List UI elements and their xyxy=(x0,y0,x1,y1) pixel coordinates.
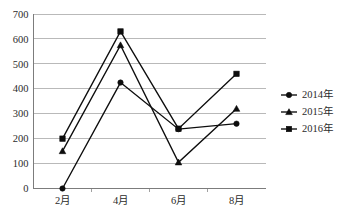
data-point-square-icon xyxy=(176,126,181,131)
chart-canvas: 0100200300400500600700 2月4月6月8月 2014年201… xyxy=(0,0,359,222)
data-point-square-icon xyxy=(60,136,65,141)
data-point-triangle-icon xyxy=(59,148,66,154)
legend-label: 2016年 xyxy=(302,122,333,134)
legend-label: 2014年 xyxy=(302,88,333,100)
y-axis-tick-label: 100 xyxy=(13,158,29,169)
x-axis-tick-label: 2月 xyxy=(55,195,70,206)
y-axis-tick-label: 0 xyxy=(23,183,28,194)
data-series xyxy=(59,29,240,191)
legend-label: 2015年 xyxy=(302,105,333,117)
y-axis-tick-label: 600 xyxy=(13,34,29,45)
series-line xyxy=(63,45,237,162)
y-axis-tick-label: 700 xyxy=(13,9,29,20)
series-line xyxy=(63,31,237,138)
legend-item-2016年[interactable]: 2016年 xyxy=(281,122,333,134)
axis-lines xyxy=(34,14,266,189)
legend-item-2015年[interactable]: 2015年 xyxy=(281,105,333,117)
data-point-square-icon xyxy=(118,29,123,34)
y-axis-tick-label: 200 xyxy=(13,133,29,144)
y-axis-labels: 0100200300400500600700 xyxy=(13,9,29,195)
y-axis-tick-label: 300 xyxy=(13,108,29,119)
line-chart: 0100200300400500600700 2月4月6月8月 2014年201… xyxy=(0,0,359,222)
data-point-circle-icon xyxy=(234,121,239,126)
data-point-circle-icon xyxy=(60,186,65,191)
y-axis-tick-label: 500 xyxy=(13,59,29,70)
legend-marker-circle-icon xyxy=(286,92,291,97)
x-axis-tick-label: 8月 xyxy=(229,195,244,206)
legend-item-2014年[interactable]: 2014年 xyxy=(281,88,333,100)
x-axis-labels: 2月4月6月8月 xyxy=(55,195,244,206)
data-point-triangle-icon xyxy=(233,105,240,111)
data-point-circle-icon xyxy=(118,80,123,85)
x-axis-tick-label: 4月 xyxy=(113,195,128,206)
x-axis-tickmarks xyxy=(92,189,208,193)
data-point-triangle-icon xyxy=(117,42,124,48)
series-2016年 xyxy=(60,29,239,142)
x-axis-tick-label: 6月 xyxy=(171,195,186,206)
data-point-square-icon xyxy=(234,71,239,76)
legend-marker-square-icon xyxy=(286,126,291,131)
chart-legend: 2014年2015年2016年 xyxy=(281,88,333,134)
y-axis-tick-label: 400 xyxy=(13,83,29,94)
